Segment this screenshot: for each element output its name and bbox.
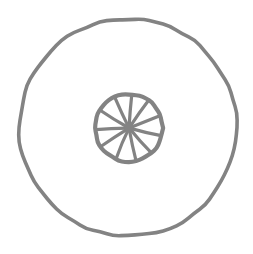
icon-canvas	[0, 0, 253, 254]
wheel-spoke-9	[96, 128, 128, 130]
wheel-hub	[125, 124, 134, 133]
spoked-wheel	[95, 94, 163, 162]
wheel-icon-graphic	[0, 0, 253, 254]
wheel-hub-center	[125, 124, 134, 133]
